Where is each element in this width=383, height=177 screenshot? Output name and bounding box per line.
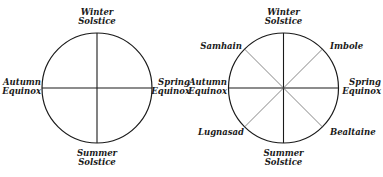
right-label-summer-solstice: Summer Solstice xyxy=(263,149,303,167)
right-label-winter-solstice: Winter Solstice xyxy=(265,8,303,26)
label-line: Equinox xyxy=(188,87,227,96)
label-line: Equinox xyxy=(2,87,41,96)
left-label-summer-solstice: Summer Solstice xyxy=(77,149,117,167)
label-line: Solstice xyxy=(263,158,303,167)
label-line: Solstice xyxy=(78,17,116,26)
label-line: Imbole xyxy=(330,42,363,51)
label-line: Equinox xyxy=(342,87,381,96)
right-label-samhain: Samhain xyxy=(200,42,242,51)
left-label-spring-equinox: Spring Equinox xyxy=(151,78,190,96)
right-label-imbole: Imbole xyxy=(330,42,363,51)
right-label-bealtaine: Bealtaine xyxy=(330,128,376,137)
label-line: Bealtaine xyxy=(330,128,376,137)
left-label-winter-solstice: Winter Solstice xyxy=(78,8,116,26)
right-wheel xyxy=(229,33,339,143)
left-wheel xyxy=(42,33,152,143)
label-line: Lugnasad xyxy=(198,128,244,137)
wheel-diagrams: Winter Solstice Summer Solstice Autumn E… xyxy=(0,0,383,177)
label-line: Samhain xyxy=(200,42,242,51)
label-line: Equinox xyxy=(151,87,190,96)
label-line: Solstice xyxy=(77,158,117,167)
right-label-spring-equinox: Spring Equinox xyxy=(342,78,381,96)
right-label-autumn-equinox: Autumn Equinox xyxy=(188,78,227,96)
right-label-lugnasad: Lugnasad xyxy=(198,128,244,137)
label-line: Solstice xyxy=(265,17,303,26)
left-label-autumn-equinox: Autumn Equinox xyxy=(2,78,41,96)
